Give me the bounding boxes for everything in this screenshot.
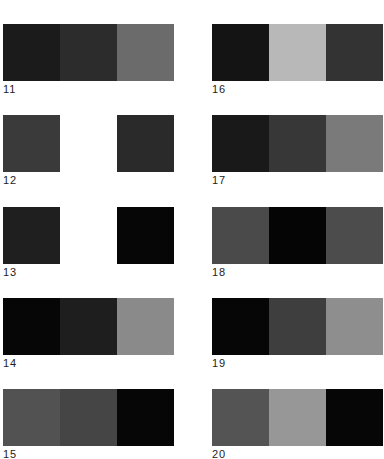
swatch-set-label: 18 — [212, 266, 226, 278]
color-swatch — [117, 207, 174, 264]
swatch-set-12: 12 — [3, 115, 174, 172]
color-swatch — [269, 298, 326, 355]
color-swatch — [3, 389, 60, 446]
swatch-set-label: 12 — [3, 174, 17, 186]
color-strip — [212, 207, 383, 264]
color-swatch — [117, 389, 174, 446]
swatch-set-16: 16 — [212, 24, 383, 81]
swatch-set-17: 17 — [212, 115, 383, 172]
swatch-set-18: 18 — [212, 207, 383, 264]
color-strip — [212, 115, 383, 172]
color-swatch — [3, 24, 60, 81]
swatch-set-19: 19 — [212, 298, 383, 355]
color-swatch — [326, 115, 383, 172]
color-swatch — [117, 24, 174, 81]
color-strip — [3, 24, 174, 81]
swatch-set-13: 13 — [3, 207, 174, 264]
color-swatch — [117, 115, 174, 172]
swatch-set-label: 11 — [3, 83, 16, 95]
color-swatch — [326, 298, 383, 355]
color-swatch — [60, 24, 117, 81]
color-swatch — [60, 298, 117, 355]
color-swatch — [326, 24, 383, 81]
color-swatch — [60, 115, 117, 172]
color-strip — [3, 115, 174, 172]
color-swatch — [60, 207, 117, 264]
color-strip — [3, 389, 174, 446]
color-strip — [212, 298, 383, 355]
swatch-set-15: 15 — [3, 389, 174, 446]
color-swatch — [326, 207, 383, 264]
color-strip — [3, 298, 174, 355]
color-swatch — [3, 115, 60, 172]
color-swatch — [60, 389, 117, 446]
color-swatch — [269, 115, 326, 172]
swatch-set-label: 17 — [212, 174, 226, 186]
color-swatch — [212, 298, 269, 355]
swatch-set-label: 20 — [212, 448, 226, 459]
color-swatch — [269, 207, 326, 264]
color-strip — [3, 207, 174, 264]
color-swatch — [212, 207, 269, 264]
color-strip — [212, 24, 383, 81]
swatch-set-14: 14 — [3, 298, 174, 355]
color-swatch — [3, 207, 60, 264]
swatch-set-label: 16 — [212, 83, 226, 95]
swatch-set-label: 19 — [212, 357, 226, 369]
swatch-set-label: 14 — [3, 357, 17, 369]
color-swatch — [3, 298, 60, 355]
color-swatch — [212, 389, 269, 446]
color-swatch — [269, 24, 326, 81]
swatch-set-20: 20 — [212, 389, 383, 446]
color-swatch — [212, 24, 269, 81]
swatch-set-11: 11 — [3, 24, 174, 81]
color-swatch — [326, 389, 383, 446]
color-swatch — [269, 389, 326, 446]
color-swatch — [212, 115, 269, 172]
color-strip — [212, 389, 383, 446]
color-swatch — [117, 298, 174, 355]
swatch-set-label: 15 — [3, 448, 17, 459]
swatch-set-label: 13 — [3, 266, 17, 278]
